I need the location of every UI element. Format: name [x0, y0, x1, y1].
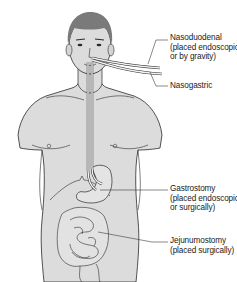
label-note: (placed endoscopically [170, 194, 237, 204]
label-note: (placed surgically) [170, 246, 234, 256]
label-title: Nasogastric [170, 81, 212, 91]
label-gastrostomy: Gastrostomy (placed endoscopically or su… [170, 184, 237, 213]
label-title: Nasoduodenal [170, 33, 237, 43]
label-title: Gastrostomy [170, 184, 237, 194]
label-note: or surgically) [170, 203, 237, 213]
label-note: or by gravity) [170, 52, 237, 62]
label-nasoduodenal: Nasoduodenal (placed endoscopically or b… [170, 33, 237, 62]
label-jejunumostomy: Jejunumostomy (placed surgically) [170, 236, 234, 255]
label-note: (placed endoscopically [170, 43, 237, 53]
feeding-tube-diagram: Nasoduodenal (placed endoscopically or b… [0, 0, 237, 282]
label-nasogastric: Nasogastric [170, 81, 212, 91]
label-title: Jejunumostomy [170, 236, 234, 246]
